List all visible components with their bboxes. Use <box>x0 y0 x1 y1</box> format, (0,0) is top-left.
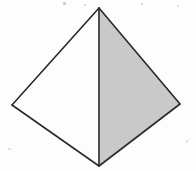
face-right-shaded <box>99 8 180 166</box>
face-left <box>12 8 99 166</box>
figure-canvas: Triangular pyramid (tetrahedron) line dr… <box>0 0 196 171</box>
pyramid-figure: Triangular pyramid (tetrahedron) line dr… <box>0 0 196 171</box>
